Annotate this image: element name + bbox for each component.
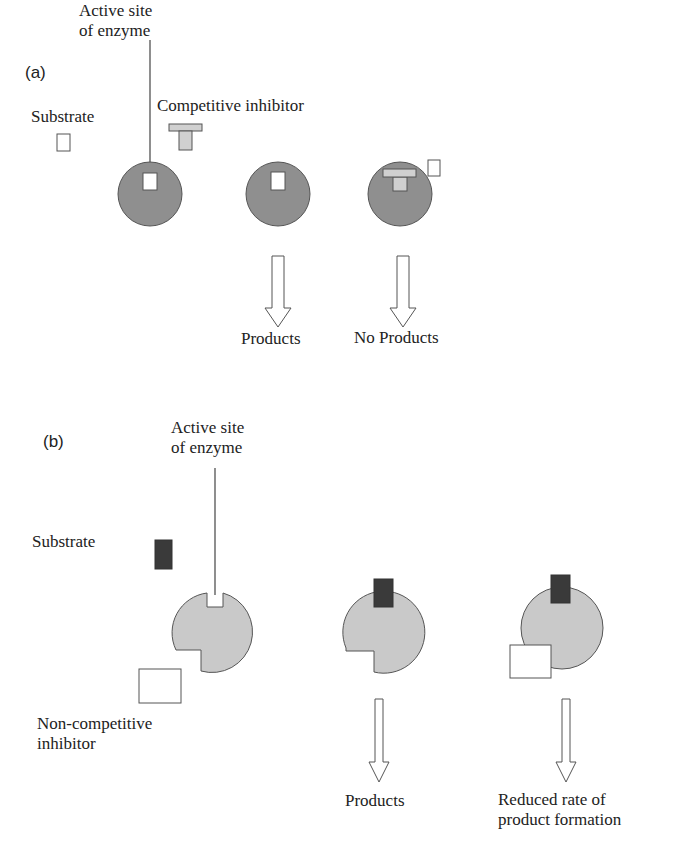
inhibitor-line2: inhibitor	[37, 734, 152, 754]
arrow-a1	[265, 256, 291, 327]
substrate-b-free	[155, 540, 172, 569]
reduced-line1: Reduced rate of	[498, 790, 621, 810]
panel-b-tag: (b)	[43, 432, 64, 452]
substrate-label-a: Substrate	[31, 107, 94, 127]
products-label-a: Products	[241, 329, 301, 349]
enzyme-a1	[118, 162, 182, 226]
enzyme-b3	[510, 575, 603, 678]
arrow-b1	[369, 699, 389, 782]
arrow-a2	[390, 256, 416, 327]
noncompetitive-inhibitor-label: Non-competitive inhibitor	[37, 714, 152, 754]
products-label-b: Products	[345, 791, 405, 811]
active-site-label-a: Active site of enzyme	[79, 1, 152, 41]
inhibitor-line1: Non-competitive	[37, 714, 152, 734]
active-site-line1: Active site	[79, 1, 152, 21]
competitive-inhibitor-free	[169, 124, 202, 150]
enzyme-b2	[343, 579, 425, 673]
no-products-label: No Products	[354, 328, 439, 348]
substrate-a-free	[57, 134, 70, 151]
enzyme-b1	[172, 593, 252, 673]
arrow-b2	[556, 699, 576, 782]
reduced-rate-label: Reduced rate of product formation	[498, 790, 621, 830]
reduced-line2: product formation	[498, 810, 621, 830]
competitive-inhibitor-label: Competitive inhibitor	[157, 96, 304, 116]
active-site-line2-b: of enzyme	[171, 438, 244, 458]
enzyme-a2	[246, 162, 310, 226]
enzyme-a3	[368, 160, 440, 226]
substrate-label-b: Substrate	[32, 532, 95, 552]
active-site-label-b: Active site of enzyme	[171, 418, 244, 458]
noncompetitive-inhibitor-free	[139, 669, 181, 703]
active-site-line1-b: Active site	[171, 418, 244, 438]
panel-a-tag: (a)	[25, 63, 46, 83]
active-site-line2: of enzyme	[79, 21, 152, 41]
